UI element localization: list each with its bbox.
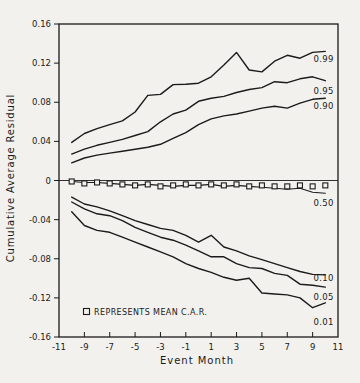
y-tick-label: -0.08 [29, 254, 51, 264]
x-tick-label: 9 [310, 342, 315, 352]
y-tick-label: 0.04 [32, 136, 51, 146]
mean-car-marker [171, 183, 176, 188]
mean-car-marker [221, 183, 226, 188]
x-tick-label: 1 [208, 342, 213, 352]
mean-car-marker [272, 184, 277, 189]
x-tick-label: 11 [333, 342, 344, 352]
series-label-090: 0.90 [314, 101, 334, 111]
mean-car-marker [183, 182, 188, 187]
x-tick-label: -3 [156, 342, 164, 352]
y-tick-label: -0.04 [29, 215, 51, 225]
x-axis-title: Event Month [160, 355, 234, 366]
y-tick-label: 0.12 [32, 58, 51, 68]
x-tick-label: -9 [80, 342, 88, 352]
x-tick-label: -5 [131, 342, 139, 352]
mean-car-marker [234, 182, 239, 187]
y-tick-label: 0.08 [32, 97, 51, 107]
mean-car-marker [285, 184, 290, 189]
y-tick-label: 0.16 [32, 19, 51, 29]
series-label-001: 0.01 [314, 317, 334, 327]
series-label-095: 0.95 [314, 86, 334, 96]
mean-car-marker [145, 182, 150, 187]
y-tick-label: -0.12 [29, 293, 51, 303]
x-tick-label: -11 [52, 342, 66, 352]
mean-car-marker [82, 181, 87, 186]
chart-canvas: 0.160.120.080.040-0.04-0.08-0.12-0.16-11… [0, 0, 360, 383]
mean-car-marker [196, 183, 201, 188]
mean-car-marker [209, 182, 214, 187]
x-tick-label: 5 [259, 342, 264, 352]
legend-open-square-icon [84, 309, 90, 315]
mean-car-marker [247, 184, 252, 189]
series-label-005: 0.05 [314, 292, 334, 302]
y-tick-label: 0 [46, 176, 51, 186]
mean-car-marker [107, 181, 112, 186]
figure-background [0, 0, 360, 383]
mean-car-marker [297, 183, 302, 188]
series-label-010: 0.10 [314, 273, 334, 283]
x-tick-label: 7 [285, 342, 290, 352]
mean-car-marker [120, 182, 125, 187]
x-tick-label: -7 [105, 342, 113, 352]
y-axis-title: Cumulative Average Residual [5, 94, 16, 262]
mean-car-marker [69, 179, 74, 184]
mean-car-marker [310, 184, 315, 189]
x-tick-label: -1 [182, 342, 190, 352]
legend-text: REPRESENTS MEAN C.A.R. [94, 308, 207, 317]
mean-car-marker [323, 183, 328, 188]
mean-car-marker [259, 183, 264, 188]
mean-car-marker [95, 180, 100, 185]
mean-car-marker [133, 183, 138, 188]
y-tick-label: -0.16 [29, 332, 51, 342]
series-label-050: 0.50 [314, 198, 334, 208]
series-label-099: 0.99 [314, 54, 334, 64]
x-tick-label: 3 [234, 342, 239, 352]
mean-car-marker [158, 184, 163, 189]
car-fractiles-figure: 0.160.120.080.040-0.04-0.08-0.12-0.16-11… [0, 0, 360, 383]
